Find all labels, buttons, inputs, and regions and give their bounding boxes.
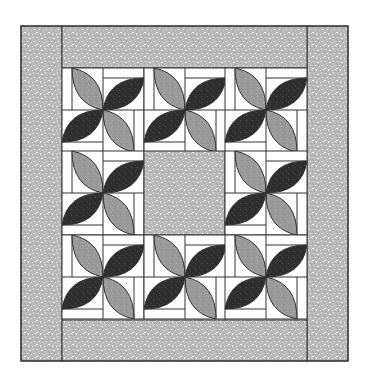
- right-border: [307, 26, 348, 361]
- block-r3c2: [144, 235, 226, 319]
- block-r2c1: [62, 151, 144, 235]
- block-r3c3: [225, 235, 307, 319]
- quilt-blocks: [62, 68, 307, 319]
- block-r3c1: [62, 235, 144, 319]
- block-r1c2: [144, 68, 226, 152]
- block-r1c1: [62, 68, 144, 152]
- block-r1c3: [225, 68, 307, 152]
- bottom-border: [62, 320, 307, 361]
- left-border: [21, 26, 62, 361]
- block-r2c3: [225, 151, 307, 235]
- quilt-illustration: [0, 0, 365, 389]
- center-square: [144, 151, 225, 235]
- top-border: [62, 26, 307, 68]
